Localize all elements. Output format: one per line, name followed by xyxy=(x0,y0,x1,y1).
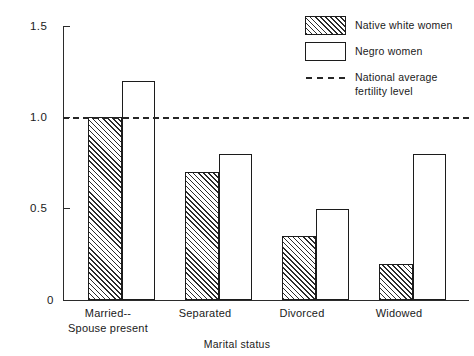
x-category-label-divorced-line1: Divorced xyxy=(252,306,352,321)
fertility-ratio-bar-chart: 1.5 1.0 0.5 0 Ratio to nation Married-- … xyxy=(0,0,474,356)
bar-negro-widowed xyxy=(413,154,446,300)
bar-negro-divorced xyxy=(316,209,349,300)
x-axis-title: Marital status xyxy=(0,338,474,350)
legend-label-negro-women: Negro women xyxy=(355,42,423,58)
x-category-label-separated: Separated xyxy=(155,306,255,321)
x-axis-line xyxy=(63,300,469,301)
x-category-label-married: Married-- Spouse present xyxy=(48,306,168,336)
bar-negro-separated xyxy=(219,154,252,300)
bar-native-white-widowed xyxy=(379,264,413,301)
bar-negro-married xyxy=(122,81,155,300)
x-category-label-married-line2: Spouse present xyxy=(48,321,168,336)
hatched-box-icon xyxy=(305,16,346,35)
bar-native-white-divorced xyxy=(282,236,316,300)
x-category-label-widowed-line1: Widowed xyxy=(349,306,449,321)
x-category-label-separated-line1: Separated xyxy=(155,306,255,321)
white-box-icon xyxy=(305,42,346,61)
legend-label-national-average: National average fertility level xyxy=(355,68,438,98)
x-category-label-widowed: Widowed xyxy=(349,306,449,321)
legend-item-negro-women: Negro women xyxy=(305,42,474,61)
dashed-line-icon xyxy=(305,68,346,87)
national-average-reference-line xyxy=(63,117,469,119)
legend: Native white women Negro women National … xyxy=(305,16,474,105)
x-category-label-divorced: Divorced xyxy=(252,306,352,321)
legend-label-native-white-women: Native white women xyxy=(355,16,453,32)
bar-native-white-separated xyxy=(185,172,219,300)
legend-item-native-white-women: Native white women xyxy=(305,16,474,35)
bar-native-white-married xyxy=(88,117,122,300)
x-category-label-married-line1: Married-- xyxy=(48,306,168,321)
legend-item-national-average: National average fertility level xyxy=(305,68,474,98)
